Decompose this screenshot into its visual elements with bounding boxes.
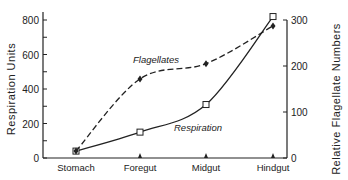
- right-tick-label: 100: [291, 107, 308, 118]
- labels: 02004006008000100200300StomachForegutMid…: [5, 15, 342, 175]
- respiration-marker: [137, 129, 143, 135]
- flagellates-annotation: Flagellates: [133, 54, 179, 65]
- right-tick-label: 0: [291, 153, 297, 164]
- flagellate-marker: [204, 60, 209, 67]
- respiration-marker: [270, 14, 276, 20]
- left-tick-label: 400: [22, 84, 39, 95]
- respiration-marker: [203, 102, 209, 108]
- x-category-label: Foregut: [124, 162, 157, 173]
- flagellate-marker: [271, 22, 276, 29]
- right-tick-label: 300: [291, 15, 308, 26]
- respiration-annotation: Respiration: [174, 122, 222, 133]
- left-tick-label: 600: [22, 50, 39, 61]
- respiration-flagellate-chart: 02004006008000100200300StomachForegutMid…: [0, 0, 348, 180]
- flagellate-marker: [138, 75, 143, 82]
- x-category-label: Hindgut: [257, 162, 290, 173]
- left-tick-label: 200: [22, 119, 39, 130]
- right-axis-title: Relative Flagellate Numbers: [330, 23, 342, 175]
- left-tick-label: 0: [33, 153, 39, 164]
- left-tick-label: 800: [22, 15, 39, 26]
- data-curves: [73, 14, 276, 155]
- left-axis-title: Respiration Units: [5, 43, 17, 135]
- x-category-label: Midgut: [192, 162, 221, 173]
- right-tick-label: 200: [291, 61, 308, 72]
- x-category-label: Stomach: [57, 162, 95, 173]
- axes: [43, 12, 287, 158]
